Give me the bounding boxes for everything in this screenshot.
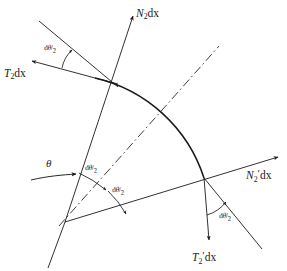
label-t2dx: T2dx (4, 68, 26, 80)
label-n2dx-operand: dx (148, 7, 160, 19)
label-n2dx-base: N (136, 7, 144, 19)
label-theta-glyph: θ (46, 157, 51, 169)
diagram-svg (0, 0, 287, 271)
line-t2dx (32, 61, 118, 84)
label-half-angle-center-lower: dθ/2 (112, 186, 124, 194)
label-t2dx-operand: dx (14, 67, 26, 79)
label-n2pdx-operand: dx (260, 169, 272, 181)
line-n2dx (48, 16, 133, 268)
theta-arrow (31, 174, 76, 180)
line-t2pdx (204, 178, 209, 240)
angle-marker-center-upper (79, 173, 106, 190)
angle-marker-top-left (62, 50, 72, 68)
reference-line-right (204, 178, 262, 249)
label-half-angle-center-upper: dθ/2 (85, 164, 97, 172)
label-n2pdx-base: N (246, 169, 254, 181)
label-n2pdx: N2′dx (246, 168, 271, 182)
reference-line-top (39, 21, 118, 87)
label-n2dx: N2dx (136, 8, 159, 20)
label-half-angle-top-left: dθ/2 (44, 44, 56, 52)
label-theta: θ (46, 158, 51, 169)
shell-arc (95, 78, 204, 178)
figure-canvas: N2dx T2dx N2′dx T2′dx θ dθ/2 dθ/2 dθ/2 d… (0, 0, 287, 271)
label-t2pdx-operand: dx (205, 251, 217, 263)
label-half-angle-bottom-right: dθ/2 (219, 212, 231, 220)
label-t2pdx: T2′dx (192, 250, 216, 264)
